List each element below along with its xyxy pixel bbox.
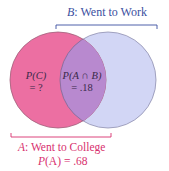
intersection-label: P(A ∩ B) = .18 <box>60 70 104 94</box>
label-a-went-to-college: A: Went to College <box>18 141 105 153</box>
bracket-b <box>56 25 157 29</box>
probability-a: P(A) = .68 <box>38 155 88 167</box>
bracket-a <box>11 133 111 137</box>
region-c-label: P(C) = ? <box>22 70 50 94</box>
label-b-went-to-work: B: Went to Work <box>67 5 147 20</box>
